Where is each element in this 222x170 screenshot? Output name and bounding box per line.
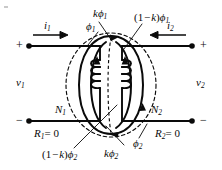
label-flux-k-phi1: kϕ1: [93, 8, 107, 20]
transformer-flux-diagram: [0, 0, 222, 170]
label-flux-1mk-phi1: (1 − k)ϕ1: [134, 12, 169, 24]
label-voltage-right: v2: [196, 77, 205, 89]
current-arrow-left-head: [60, 31, 68, 38]
terminal-bottom-left: [26, 118, 32, 124]
label-voltage-left: v1: [16, 77, 25, 89]
magnetic-core-outline: [79, 36, 143, 134]
polarity-top-right: +: [200, 39, 207, 51]
circuit-wires: [29, 46, 192, 121]
label-flux-k-phi2: kϕ2: [104, 148, 118, 160]
label-flux-left: ϕ1: [86, 21, 95, 33]
terminal-top-left: [26, 43, 32, 49]
core-outer-loop: [79, 36, 143, 134]
polarity-bottom-right: −: [200, 114, 207, 126]
label-reluctance-left: R1= 0: [34, 128, 59, 140]
leader-phi2: [139, 124, 147, 138]
label-turns-right: N2: [151, 104, 162, 116]
label-leader-lines: [74, 22, 147, 148]
label-reluctance-right: R2= 0: [155, 128, 180, 140]
terminal-bottom-right: [189, 118, 195, 124]
current-arrow-right-head: [150, 31, 158, 38]
label-flux-right: ϕ2: [133, 138, 142, 150]
flux-split-dashed-line: [108, 37, 111, 133]
polarity-bottom-left: −: [16, 114, 23, 126]
label-current-left: i1: [44, 20, 51, 32]
label-flux-1mk-phi2: (1 − k)ϕ2: [42, 149, 77, 161]
core-window-left: [91, 42, 106, 128]
terminal-top-right: [189, 43, 195, 49]
polarity-top-left: +: [16, 39, 23, 51]
core-window-right: [116, 42, 131, 128]
label-turns-left: N1: [55, 104, 66, 116]
dashed-center-divider: [108, 37, 111, 133]
